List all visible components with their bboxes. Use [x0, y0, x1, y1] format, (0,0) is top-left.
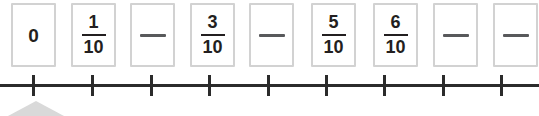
number-line-tick	[325, 75, 328, 96]
fraction-numerator: 6	[390, 13, 400, 32]
answer-box-fraction[interactable]: 310	[190, 3, 235, 67]
answer-box-blank[interactable]	[493, 3, 538, 67]
fraction-bar	[322, 34, 346, 36]
fraction-bar	[201, 34, 225, 36]
answer-box-blank[interactable]	[249, 3, 294, 67]
fraction-number-line-exercise: 0110310510610	[0, 0, 539, 116]
answer-box-blank[interactable]	[433, 3, 478, 67]
number-line-tick	[500, 75, 503, 96]
fraction: 610	[384, 13, 408, 57]
blank-fraction-bar	[259, 34, 285, 37]
answer-box-whole[interactable]: 0	[11, 3, 56, 67]
fraction: 110	[82, 13, 106, 57]
number-line-tick	[267, 75, 270, 96]
chevron-up-icon	[8, 101, 64, 116]
fraction-numerator: 5	[328, 13, 338, 32]
answer-box-fraction[interactable]: 610	[373, 3, 418, 67]
number-line-tick	[150, 75, 153, 96]
answer-box-value: 0	[28, 26, 39, 45]
answer-box-blank[interactable]	[130, 3, 175, 67]
blank-fraction-bar	[503, 34, 529, 37]
fraction: 510	[322, 13, 346, 57]
number-line	[0, 72, 539, 100]
fraction-denominator: 10	[83, 38, 103, 57]
number-line-tick	[442, 75, 445, 96]
blank-fraction-bar	[443, 34, 469, 37]
fraction-bar	[82, 34, 106, 36]
number-line-tick	[32, 75, 35, 96]
number-line-tick	[383, 75, 386, 96]
fraction-denominator: 10	[323, 38, 343, 57]
fraction-numerator: 3	[207, 13, 217, 32]
fraction-bar	[384, 34, 408, 36]
fraction-denominator: 10	[385, 38, 405, 57]
blank-fraction-bar	[140, 34, 166, 37]
fraction: 310	[201, 13, 225, 57]
number-line-tick	[91, 75, 94, 96]
answer-boxes-row: 0110310510610	[0, 0, 539, 72]
number-line-tick	[208, 75, 211, 96]
fraction-denominator: 10	[202, 38, 222, 57]
answer-box-fraction[interactable]: 510	[311, 3, 356, 67]
fraction-numerator: 1	[88, 13, 98, 32]
answer-box-fraction[interactable]: 110	[71, 3, 116, 67]
